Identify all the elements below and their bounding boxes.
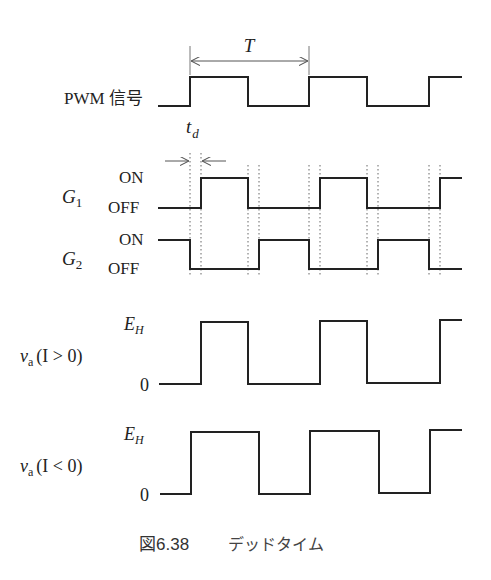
deadtime-timing-diagram: T PWM 信号 td G1 ON OFF G2 ON OFF EH va(I …	[0, 0, 491, 580]
g1-waveform	[158, 178, 462, 208]
period-annotation: T	[190, 35, 309, 75]
g2-label: G2	[62, 248, 82, 272]
deadtime-annotation: td	[165, 116, 226, 161]
pwm-waveform	[158, 77, 462, 106]
g2-on-label: ON	[119, 230, 144, 249]
g2-waveform	[158, 240, 462, 269]
va-neg-waveform	[160, 430, 462, 494]
va-pos-high-label: EH	[123, 314, 145, 337]
g2-off-label: OFF	[108, 259, 139, 278]
deadtime-label: td	[186, 116, 199, 141]
figure-caption-text: デッドタイム	[228, 535, 324, 553]
period-label: T	[244, 35, 256, 56]
va-pos-label: va(I > 0)	[20, 346, 82, 369]
va-neg-high-label: EH	[123, 424, 145, 447]
pwm-label: PWM 信号	[64, 89, 143, 108]
deadtime-guide-lines	[190, 153, 440, 276]
g1-off-label: OFF	[108, 198, 139, 217]
figure-caption-number: 図6.38	[139, 535, 189, 554]
va-pos-low-label: 0	[140, 375, 149, 395]
g1-label: G1	[62, 186, 82, 210]
va-neg-low-label: 0	[140, 485, 149, 505]
g1-on-label: ON	[119, 168, 144, 187]
va-pos-waveform	[159, 320, 462, 384]
va-neg-label: va(I < 0)	[20, 456, 82, 479]
